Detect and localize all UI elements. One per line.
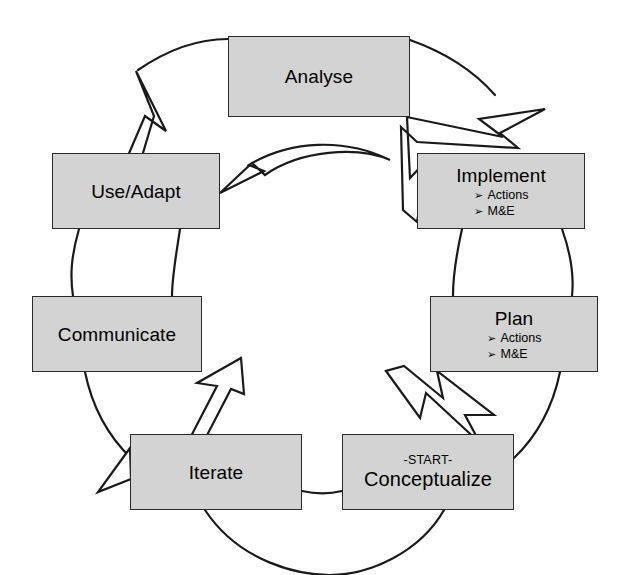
node-use-adapt-label: Use/Adapt bbox=[91, 180, 181, 203]
node-plan[interactable]: Plan ➢ Actions ➢ M&E bbox=[430, 296, 598, 372]
node-implement-label: Implement bbox=[456, 164, 546, 187]
list-item: ➢ M&E bbox=[487, 346, 542, 362]
bullet-label: M&E bbox=[501, 346, 528, 362]
ring-arc-analyse-implement bbox=[410, 40, 495, 95]
node-iterate[interactable]: Iterate bbox=[130, 434, 302, 510]
arrow-bullet-icon: ➢ bbox=[487, 329, 496, 345]
node-communicate-label: Communicate bbox=[58, 323, 176, 346]
node-communicate[interactable]: Communicate bbox=[32, 296, 202, 372]
node-analyse[interactable]: Analyse bbox=[228, 36, 410, 117]
ring-arc-useadapt-analyse bbox=[138, 39, 228, 70]
node-analyse-label: Analyse bbox=[285, 65, 353, 88]
node-plan-label: Plan bbox=[495, 307, 533, 330]
cyclical-process-diagram: Analyse Implement ➢ Actions ➢ M&E Use/Ad… bbox=[0, 0, 624, 575]
arrow-bullet-icon: ➢ bbox=[487, 345, 496, 361]
node-conceptualize-start-label: -START- bbox=[404, 453, 453, 468]
node-use-adapt[interactable]: Use/Adapt bbox=[52, 153, 220, 229]
ring-arc-implement-plan-inner bbox=[453, 229, 462, 296]
node-conceptualize-label: Conceptualize bbox=[364, 468, 492, 491]
node-iterate-label: Iterate bbox=[189, 461, 244, 484]
bullet-label: Actions bbox=[488, 187, 529, 203]
node-implement[interactable]: Implement ➢ Actions ➢ M&E bbox=[417, 153, 585, 229]
list-item: ➢ M&E bbox=[474, 203, 529, 219]
list-item: ➢ Actions bbox=[487, 330, 542, 346]
flow-arrow-to-conceptualize bbox=[386, 366, 494, 443]
arrow-bullet-icon: ➢ bbox=[474, 186, 483, 202]
arrow-bullet-icon: ➢ bbox=[474, 202, 483, 218]
flow-arrow-inner-to-use-adapt bbox=[220, 145, 390, 193]
ring-arc-useadapt-communicate-outer bbox=[71, 229, 79, 296]
node-conceptualize[interactable]: -START- Conceptualize bbox=[342, 434, 514, 510]
flow-arrow-head-iterate-left bbox=[98, 448, 131, 492]
ring-arc-plan-conceptualize bbox=[514, 372, 560, 458]
ring-arc-implement-plan-outer bbox=[562, 229, 573, 296]
bullet-label: Actions bbox=[501, 330, 542, 346]
ring-arc-useadapt-communicate-inner bbox=[172, 229, 180, 296]
bullet-label: M&E bbox=[488, 203, 515, 219]
ring-arc-communicate-iterate bbox=[85, 372, 131, 458]
list-item: ➢ Actions bbox=[474, 187, 529, 203]
node-plan-bullets: ➢ Actions ➢ M&E bbox=[487, 330, 542, 362]
node-implement-bullets: ➢ Actions ➢ M&E bbox=[474, 187, 529, 219]
ring-arc-iterate-conceptualize bbox=[205, 510, 444, 575]
ring-arc-iterate-conceptualize-inner bbox=[302, 491, 342, 493]
